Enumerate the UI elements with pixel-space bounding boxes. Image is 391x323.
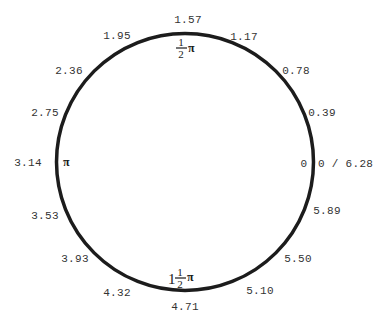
radian-label: 5.10 — [246, 285, 274, 297]
radian-label: 5.50 — [284, 253, 312, 265]
radian-label: 0 — [301, 158, 308, 170]
radian-label: 3.53 — [31, 210, 59, 222]
radian-label: 3.93 — [61, 253, 89, 265]
half-pi-symbol: π — [188, 41, 195, 55]
one-and-half-pi-whole: 1 — [168, 271, 176, 287]
one-and-half-pi-denominator: 2 — [177, 278, 183, 290]
pi-marker-label: π — [63, 155, 70, 169]
radian-label: 1.57 — [174, 14, 202, 26]
radian-label: 0 / 6.28 — [318, 158, 373, 170]
radian-label: 0.39 — [308, 107, 336, 119]
radian-label: 2.75 — [31, 107, 59, 119]
half-pi-denominator: 2 — [178, 48, 184, 60]
radian-label: 5.89 — [313, 205, 341, 217]
radian-label: 2.36 — [55, 65, 83, 77]
one-and-half-pi-symbol: π — [187, 270, 194, 284]
unit-circle-diagram: 1.571.951.172.360.782.750.393.1400 / 6.2… — [0, 0, 391, 323]
radian-label: 1.17 — [230, 31, 258, 43]
radian-label: 4.71 — [171, 301, 199, 313]
one-and-half-pi-numerator: 1 — [177, 266, 183, 278]
half-pi-numerator: 1 — [178, 36, 184, 48]
radian-label: 3.14 — [14, 157, 42, 169]
radian-label: 1.95 — [103, 30, 131, 42]
radian-label: 0.78 — [282, 65, 310, 77]
radian-label: 4.32 — [103, 287, 131, 299]
